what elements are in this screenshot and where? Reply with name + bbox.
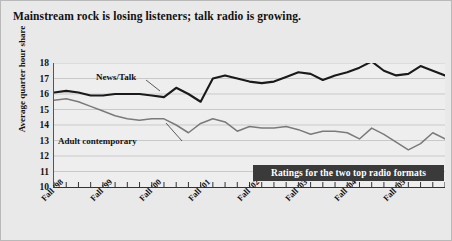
y-tick-13: 13 bbox=[29, 136, 49, 146]
y-tick-18: 18 bbox=[29, 58, 49, 68]
series-label-adult-contemporary: Adult contemporary bbox=[58, 136, 137, 146]
chart-figure: Mainstream rock is losing listeners; tal… bbox=[0, 0, 452, 241]
chart-title: Mainstream rock is losing listeners; tal… bbox=[13, 10, 301, 22]
leader-line-news-talk bbox=[146, 80, 160, 91]
series-label-news-talk: News/Talk bbox=[96, 72, 136, 82]
y-tick-15: 15 bbox=[29, 105, 49, 115]
series-line-news-talk bbox=[54, 63, 445, 102]
y-tick-14: 14 bbox=[29, 120, 49, 130]
leader-line-adult-contemporary bbox=[166, 123, 182, 141]
y-axis-label: Average quarter hour share bbox=[17, 14, 27, 144]
y-tick-11: 11 bbox=[29, 167, 49, 177]
chart-caption: Ratings for the two top radio formats bbox=[253, 165, 444, 181]
y-axis-ticks: 181716151413121110 bbox=[27, 1, 49, 241]
y-tick-16: 16 bbox=[29, 89, 49, 99]
y-tick-12: 12 bbox=[29, 151, 49, 161]
y-tick-17: 17 bbox=[29, 74, 49, 84]
